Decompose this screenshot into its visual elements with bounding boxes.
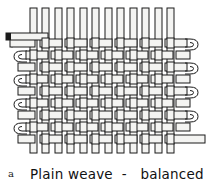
weft-row — [14, 51, 190, 62]
weft-row — [14, 123, 190, 134]
weft-row — [14, 99, 190, 110]
weave-diagram-page: .th{fill:#f4f4f2;stroke:#1a1a1a;stroke-w… — [0, 0, 210, 189]
weft-row — [14, 75, 190, 86]
caption-text: Plain weave - balanced — [30, 165, 204, 182]
figure-caption: a Plain weave - balanced — [0, 158, 210, 189]
weave-figure: .th{fill:#f4f4f2;stroke:#1a1a1a;stroke-w… — [0, 0, 210, 160]
weave-svg: .th{fill:#f4f4f2;stroke:#1a1a1a;stroke-w… — [0, 0, 210, 160]
figure-label: a — [8, 169, 24, 179]
